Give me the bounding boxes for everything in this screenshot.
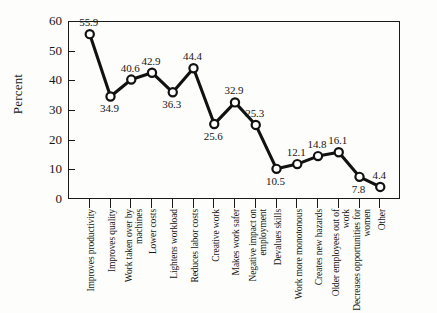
y-tick-label: 60	[32, 16, 62, 26]
y-axis-tick-labels: 60 50 40 30 20 10 0	[32, 0, 62, 309]
x-category-label: Reduces labor costs	[191, 209, 201, 313]
data-point-marker	[314, 152, 322, 160]
x-tick-mark	[172, 199, 173, 208]
data-point-marker	[355, 173, 363, 181]
x-tick-mark	[213, 199, 214, 208]
x-category-label: Work taken over by machines	[124, 209, 143, 313]
data-point-marker	[127, 75, 135, 83]
y-tick-label: 0	[32, 194, 62, 204]
x-category-label: Improves quality	[108, 209, 118, 313]
data-value-label: 7.8	[352, 183, 365, 195]
data-point-marker	[376, 183, 384, 191]
x-tick-mark	[234, 199, 235, 208]
data-point-marker	[86, 30, 94, 38]
x-category-label: Negative impact on employment	[249, 209, 268, 313]
y-tick-label: 10	[32, 164, 62, 174]
x-tick-mark	[338, 199, 339, 208]
data-point-marker	[231, 98, 239, 106]
data-value-label: 32.9	[225, 84, 244, 96]
x-category-label: Devalues skills	[274, 209, 284, 313]
x-tick-mark	[255, 199, 256, 208]
x-tick-mark	[110, 199, 111, 208]
data-value-label: 40.6	[121, 62, 140, 74]
data-value-label: 42.9	[142, 55, 161, 67]
x-category-label: Decreases opportunities for women	[352, 209, 371, 313]
y-tick-label: 50	[32, 46, 62, 56]
x-category-label: Older employees out of work	[332, 209, 351, 313]
x-tick-mark	[296, 199, 297, 208]
data-value-label: 12.1	[287, 146, 306, 158]
data-value-label: 36.3	[162, 98, 181, 110]
data-value-label: 16.1	[328, 134, 347, 146]
x-tick-mark	[130, 199, 131, 208]
x-tick-mark	[276, 199, 277, 208]
data-point-marker	[106, 92, 114, 100]
data-point-marker	[293, 160, 301, 168]
x-tick-mark	[193, 199, 194, 208]
y-tick-label: 40	[32, 75, 62, 85]
y-axis-title: Percent	[10, 49, 26, 139]
x-tick-mark	[359, 199, 360, 208]
x-tick-mark	[317, 199, 318, 208]
data-point-marker	[272, 165, 280, 173]
x-category-label: Lightens workload	[170, 209, 180, 313]
x-category-label: Creates new hazards	[316, 209, 326, 313]
data-value-label: 25.3	[245, 107, 264, 119]
data-value-label: 55.9	[79, 16, 98, 28]
y-tick-label: 30	[32, 105, 62, 115]
data-value-label: 10.5	[266, 175, 285, 187]
data-point-marker	[210, 120, 218, 128]
data-point-marker	[148, 69, 156, 77]
data-value-label: 34.9	[100, 102, 119, 114]
x-tick-mark	[379, 199, 380, 208]
data-value-label: 25.6	[204, 130, 223, 142]
data-value-label: 14.8	[308, 138, 327, 150]
data-point-marker	[335, 148, 343, 156]
data-value-label: 4.4	[373, 169, 386, 181]
x-category-label: Improves productivity	[87, 209, 97, 313]
data-point-marker	[252, 121, 260, 129]
data-point-marker	[189, 64, 197, 72]
x-category-label: Creative work	[212, 209, 222, 313]
x-tick-mark	[89, 199, 90, 208]
x-category-label: Makes work safer	[233, 209, 243, 313]
data-point-marker	[169, 88, 177, 96]
x-category-label: Work more monotonous	[295, 209, 305, 313]
x-tick-mark	[151, 199, 152, 208]
data-value-label: 44.4	[183, 50, 202, 62]
y-tick-label: 20	[32, 135, 62, 145]
x-category-label: Other	[378, 209, 388, 313]
x-category-label: Lower costs	[150, 209, 160, 313]
series-line	[90, 34, 381, 187]
